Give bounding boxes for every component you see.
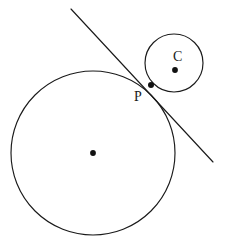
large-circle-center-dot: [90, 150, 96, 156]
geometry-figure: P C: [0, 0, 236, 251]
geometry-canvas: [0, 0, 236, 251]
label-point-c: C: [173, 50, 182, 64]
small-circle-center-dot: [172, 67, 178, 73]
tangent-point-dot: [148, 82, 154, 88]
label-point-p: P: [134, 90, 142, 104]
